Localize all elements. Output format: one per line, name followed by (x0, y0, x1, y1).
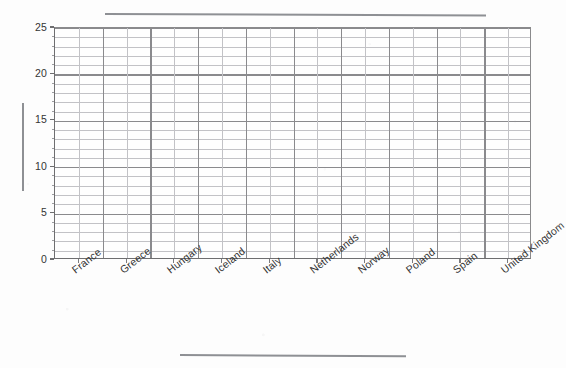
x-tick-label: Poland (404, 246, 437, 275)
x-tick-label: Netherlands (308, 231, 360, 275)
x-tick-label: United Kingdom (499, 220, 566, 276)
x-tick-label: Italy (261, 255, 283, 276)
x-tick-label: Hungary (165, 242, 204, 275)
x-tick-label: Greece (118, 245, 152, 275)
x-tick-label: Norway (356, 245, 391, 276)
x-tick-label: Spain (451, 250, 479, 275)
x-tick-label: France (70, 246, 103, 275)
x-tick-label: Iceland (213, 245, 247, 275)
